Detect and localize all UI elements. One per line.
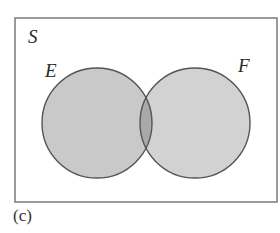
figure-caption: (c) xyxy=(13,206,32,226)
set-f-label: F xyxy=(237,55,250,76)
universe-label: S xyxy=(28,26,38,47)
set-e-label: E xyxy=(44,60,57,81)
venn-diagram: S E F xyxy=(0,0,280,233)
